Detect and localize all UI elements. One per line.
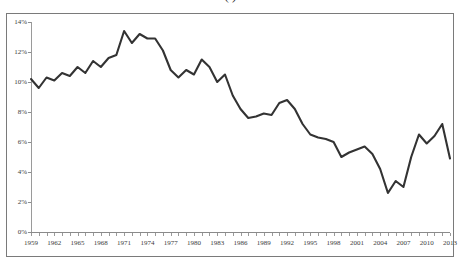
- x-tick-mark: [303, 233, 304, 236]
- y-tick-mark: [28, 22, 31, 23]
- x-tick-mark: [78, 233, 79, 236]
- x-tick-mark: [442, 233, 443, 236]
- x-tick-mark: [318, 233, 319, 236]
- x-tick-mark: [248, 233, 249, 236]
- x-tick-mark: [427, 233, 428, 236]
- x-tick-mark: [295, 233, 296, 236]
- x-tick-mark: [450, 233, 451, 236]
- y-tick-label: 6%: [3, 139, 27, 146]
- x-tick-mark: [202, 233, 203, 236]
- x-tick-mark: [171, 233, 172, 236]
- x-tick-mark: [209, 233, 210, 236]
- x-tick-mark: [411, 233, 412, 236]
- x-tick-mark: [140, 233, 141, 236]
- x-tick-mark: [85, 233, 86, 236]
- y-tick-mark: [28, 52, 31, 53]
- x-tick-label: 1968: [94, 239, 108, 247]
- x-tick-mark: [147, 233, 148, 236]
- x-tick-label: 1980: [187, 239, 201, 247]
- x-tick-mark: [419, 233, 420, 236]
- x-tick-mark: [264, 233, 265, 236]
- y-tick-label: 4%: [3, 169, 27, 176]
- x-tick-mark: [70, 233, 71, 236]
- x-tick-mark: [380, 233, 381, 236]
- y-axis-line: [31, 22, 32, 232]
- y-tick-label: 10%: [3, 79, 27, 86]
- x-tick-label: 1986: [234, 239, 248, 247]
- x-tick-mark: [388, 233, 389, 236]
- x-tick-label: 1965: [71, 239, 85, 247]
- x-tick-mark: [256, 233, 257, 236]
- x-tick-label: 1983: [210, 239, 224, 247]
- x-tick-mark: [62, 233, 63, 236]
- y-tick-mark: [28, 142, 31, 143]
- x-tick-mark: [272, 233, 273, 236]
- x-tick-mark: [403, 233, 404, 236]
- y-tick-label: 12%: [3, 49, 27, 56]
- x-tick-mark: [155, 233, 156, 236]
- y-tick-mark: [28, 112, 31, 113]
- y-tick-mark: [28, 82, 31, 83]
- x-tick-mark: [357, 233, 358, 236]
- x-tick-label: 1995: [303, 239, 317, 247]
- x-tick-mark: [163, 233, 164, 236]
- y-tick-label: 14%: [3, 19, 27, 26]
- x-tick-label: 2013: [443, 239, 457, 247]
- x-tick-label: 1962: [47, 239, 61, 247]
- x-tick-label: 1971: [117, 239, 131, 247]
- x-tick-mark: [225, 233, 226, 236]
- x-tick-mark: [341, 233, 342, 236]
- x-tick-mark: [101, 233, 102, 236]
- x-tick-mark: [132, 233, 133, 236]
- x-tick-mark: [93, 233, 94, 236]
- y-tick-label: 8%: [3, 109, 27, 116]
- x-tick-mark: [194, 233, 195, 236]
- x-tick-label: 1998: [327, 239, 341, 247]
- x-tick-mark: [396, 233, 397, 236]
- x-tick-mark: [109, 233, 110, 236]
- x-tick-mark: [241, 233, 242, 236]
- x-tick-mark: [39, 233, 40, 236]
- x-tick-mark: [178, 233, 179, 236]
- x-tick-mark: [186, 233, 187, 236]
- y-tick-mark: [28, 202, 31, 203]
- x-tick-mark: [279, 233, 280, 236]
- x-tick-label: 2007: [396, 239, 410, 247]
- y-tick-label: 2%: [3, 199, 27, 206]
- x-tick-mark: [233, 233, 234, 236]
- x-tick-mark: [31, 233, 32, 236]
- x-tick-label: 1992: [280, 239, 294, 247]
- x-tick-mark: [365, 233, 366, 236]
- x-tick-mark: [326, 233, 327, 236]
- chart-title: ( ): [0, 0, 461, 3]
- x-tick-mark: [124, 233, 125, 236]
- x-tick-mark: [434, 233, 435, 236]
- y-tick-mark: [28, 172, 31, 173]
- x-tick-label: 1977: [164, 239, 178, 247]
- x-tick-label: 1959: [24, 239, 38, 247]
- x-tick-mark: [372, 233, 373, 236]
- x-tick-mark: [334, 233, 335, 236]
- x-tick-label: 2010: [420, 239, 434, 247]
- x-tick-label: 1989: [257, 239, 271, 247]
- x-tick-mark: [349, 233, 350, 236]
- x-tick-label: 1974: [140, 239, 154, 247]
- x-tick-mark: [47, 233, 48, 236]
- x-tick-mark: [116, 233, 117, 236]
- x-tick-mark: [287, 233, 288, 236]
- x-tick-mark: [217, 233, 218, 236]
- x-tick-label: 2004: [373, 239, 387, 247]
- x-tick-label: 2001: [350, 239, 364, 247]
- y-tick-label: 0%: [3, 229, 27, 236]
- plot-frame: [6, 13, 454, 257]
- x-tick-mark: [310, 233, 311, 236]
- x-tick-mark: [54, 233, 55, 236]
- chart-figure: ( ) 14%12%10%8%6%4%2%0% 1959196219651968…: [0, 0, 461, 269]
